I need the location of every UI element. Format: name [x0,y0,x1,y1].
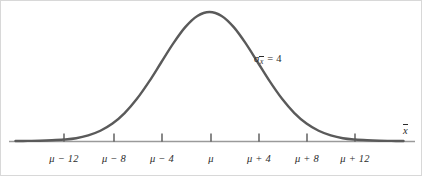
normal-distribution-figure: μ − 12 μ − 8 μ − 4 μ μ + 4 μ + 8 μ + 12 … [0,0,422,176]
normal-curve [16,12,404,141]
tick-label-mu-plus-4: μ + 4 [247,153,271,164]
tick-label-mu-plus-8: μ + 8 [295,153,319,164]
tick-label-mu: μ [208,153,213,164]
sigma-annotation: σx = 4 [254,53,282,66]
tick-label-mu-minus-8: μ − 8 [102,153,126,164]
tick-marks [64,134,355,142]
x-axis-label-text: x [403,125,408,136]
equals-sign: = [267,53,273,64]
plot-canvas [1,1,422,176]
tick-label-mu-minus-4: μ − 4 [150,153,174,164]
tick-label-mu-plus-12: μ + 12 [340,153,369,164]
sigma-value: 4 [276,53,281,64]
sigma-subscript: x [260,57,264,66]
tick-label-mu-minus-12: μ − 12 [49,153,78,164]
x-axis-label: x [403,125,408,136]
